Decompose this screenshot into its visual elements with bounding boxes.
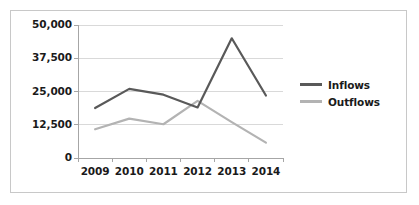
series-line-inflows bbox=[95, 38, 266, 108]
legend-label: Inflows bbox=[328, 79, 370, 91]
chart-figure: 012,50025,00037,50050,000 20092010201120… bbox=[0, 0, 419, 205]
legend-label: Outflows bbox=[328, 96, 380, 108]
legend-swatch-icon bbox=[300, 100, 322, 103]
y-axis-label: 25,000 bbox=[18, 85, 72, 97]
series-line-outflows bbox=[95, 101, 266, 143]
y-axis-label: 37,500 bbox=[18, 51, 72, 63]
legend-item: Inflows bbox=[300, 76, 400, 93]
legend-swatch-icon bbox=[300, 83, 322, 86]
y-axis-label: 50,000 bbox=[18, 18, 72, 30]
x-axis-label: 2014 bbox=[246, 165, 286, 177]
chart-legend: InflowsOutflows bbox=[300, 76, 400, 110]
legend-item: Outflows bbox=[300, 93, 400, 110]
y-axis-label: 0 bbox=[18, 151, 72, 163]
y-axis-label: 12,500 bbox=[18, 118, 72, 130]
